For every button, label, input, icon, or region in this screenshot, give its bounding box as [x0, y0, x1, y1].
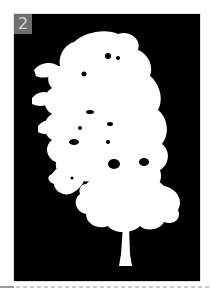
bottom-divider — [0, 286, 210, 288]
tree-image-panel: 2 — [14, 14, 200, 281]
number-badge: 2 — [14, 14, 32, 34]
tree-silhouette-icon — [14, 14, 200, 281]
divider-solid-segment — [0, 286, 14, 288]
divider-dashed-segment — [16, 286, 210, 288]
